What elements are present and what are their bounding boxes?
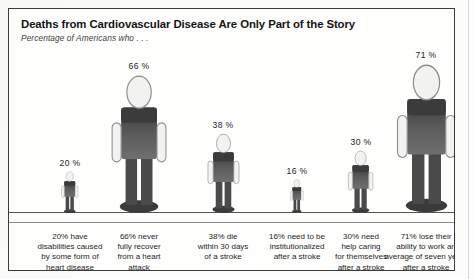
- person-pictogram-icon: [107, 74, 171, 214]
- figure-caption: 66% neverfully recoverfrom a heartattack: [100, 232, 178, 271]
- caption-line: after a stroke: [370, 263, 455, 271]
- sheet-edge-rule: [468, 0, 469, 279]
- caption-line: attack: [100, 263, 178, 271]
- value-label: 71 %: [416, 50, 437, 60]
- pictogram-chart: 20 % 66 %: [9, 9, 454, 213]
- caption-line: fully recover: [100, 242, 178, 252]
- pictogram-column: 71 %: [366, 50, 455, 213]
- value-label: 20 %: [60, 158, 81, 168]
- value-label: 66 %: [129, 61, 150, 71]
- infographic-panel: Deaths from Cardiovascular Disease Are O…: [8, 8, 455, 271]
- caption-line: 66% never: [100, 232, 178, 242]
- caption-line: 71% lose their: [370, 232, 455, 242]
- value-label: 38 %: [213, 120, 234, 130]
- person-pictogram-icon: [205, 133, 242, 213]
- person-pictogram-icon: [60, 171, 80, 213]
- person-pictogram-icon: [392, 63, 456, 213]
- caption-line: from a heart: [100, 252, 178, 262]
- caption-line: average of seven years: [370, 252, 455, 262]
- caption-line: ability to work an: [370, 242, 455, 252]
- figure-caption: 71% lose theirability to work anaverage …: [370, 232, 455, 271]
- caption-row: 20% havedisabilities causedby some form …: [9, 223, 454, 270]
